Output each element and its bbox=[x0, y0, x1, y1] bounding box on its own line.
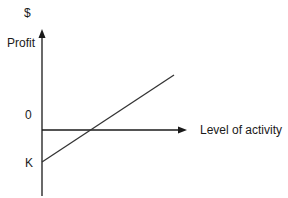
x-axis-arrowhead-icon bbox=[178, 127, 187, 134]
y-unit-label: $ bbox=[24, 7, 31, 19]
x-axis-label: Level of activity bbox=[200, 124, 282, 136]
zero-tick-label: 0 bbox=[25, 109, 32, 121]
intercept-k-label: K bbox=[25, 157, 33, 169]
y-axis-label: Profit bbox=[7, 37, 35, 49]
profit-line bbox=[42, 75, 174, 162]
chart-canvas bbox=[0, 0, 288, 198]
profit-volume-chart: $ Profit 0 K Level of activity bbox=[0, 0, 288, 198]
y-axis-arrowhead-icon bbox=[39, 29, 46, 38]
